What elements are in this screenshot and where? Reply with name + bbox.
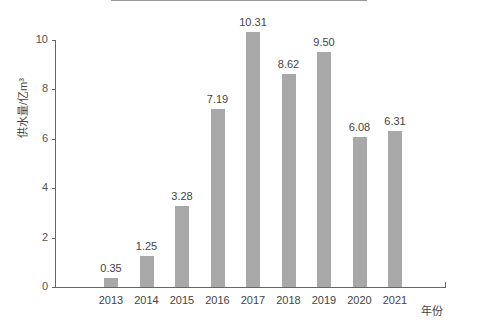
x-axis-title: 年份 — [421, 302, 443, 318]
bar-2014 — [140, 256, 154, 287]
x-tick-label: 2019 — [304, 294, 344, 306]
y-tick — [52, 238, 56, 239]
y-axis — [55, 40, 56, 288]
x-tick-label: 2015 — [162, 294, 202, 306]
x-tick-label: 2014 — [127, 294, 167, 306]
value-label: 7.19 — [198, 93, 238, 105]
bar-2020 — [353, 137, 367, 287]
y-tick-label: 6 — [30, 132, 48, 144]
y-tick — [52, 287, 56, 288]
x-tick-label: 2016 — [198, 294, 238, 306]
bar-2017 — [246, 32, 260, 287]
y-tick-label: 2 — [30, 231, 48, 243]
value-label: 3.28 — [162, 190, 202, 202]
y-tick-label: 0 — [30, 280, 48, 292]
y-tick — [52, 89, 56, 90]
y-tick — [52, 40, 56, 41]
y-tick-label: 4 — [30, 181, 48, 193]
bar-2015 — [175, 206, 189, 287]
x-tick-label: 2020 — [340, 294, 380, 306]
top-rule — [111, 0, 367, 1]
value-label: 6.31 — [375, 115, 415, 127]
y-axis-title: 供水量/亿m³ — [14, 78, 30, 138]
x-tick-label: 2021 — [375, 294, 415, 306]
x-axis-end-tick — [445, 282, 446, 288]
bar-2019 — [317, 52, 331, 287]
value-label: 10.31 — [233, 16, 273, 28]
bar-2016 — [211, 109, 225, 287]
x-tick-label: 2017 — [233, 294, 273, 306]
y-tick-label: 10 — [30, 33, 48, 45]
x-axis — [55, 287, 446, 288]
y-tick — [52, 188, 56, 189]
bar-2021 — [388, 131, 402, 287]
value-label: 6.08 — [340, 121, 380, 133]
x-tick-label: 2018 — [269, 294, 309, 306]
value-label: 8.62 — [269, 58, 309, 70]
y-tick — [52, 139, 56, 140]
value-label: 1.25 — [127, 240, 167, 252]
x-tick-label: 2013 — [91, 294, 131, 306]
bar-2018 — [282, 74, 296, 287]
value-label: 0.35 — [91, 262, 131, 274]
bar-2013 — [104, 278, 118, 287]
value-label: 9.50 — [304, 36, 344, 48]
y-tick-label: 8 — [30, 82, 48, 94]
